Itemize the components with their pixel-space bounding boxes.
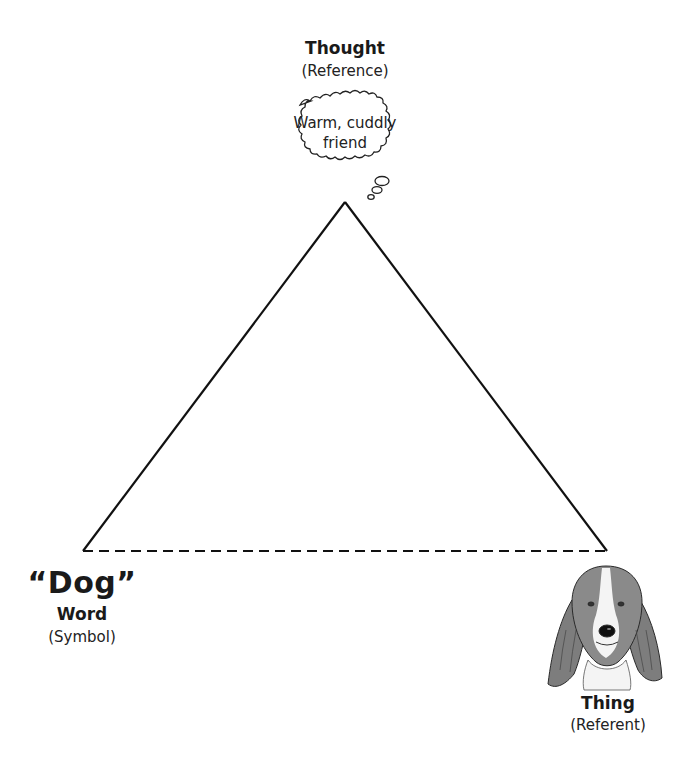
symbol-sublabel: (Symbol) xyxy=(48,628,116,646)
edge-thought-referent xyxy=(345,202,607,551)
thought-bubble-line1: Warm, cuddly xyxy=(294,113,397,133)
symbol-word: “Dog” xyxy=(28,565,137,600)
thought-label: Thought xyxy=(305,38,385,58)
thought-sublabel: (Reference) xyxy=(301,62,388,80)
basset-hound-head-icon xyxy=(548,566,662,690)
thought-bubble-text: Warm, cuddly friend xyxy=(294,113,397,153)
referent-label: Thing xyxy=(581,693,635,713)
symbol-label: Word xyxy=(57,604,107,624)
referent-sublabel: (Referent) xyxy=(570,716,646,734)
edge-symbol-thought xyxy=(83,202,345,551)
thought-bubble-line2: friend xyxy=(294,133,397,153)
